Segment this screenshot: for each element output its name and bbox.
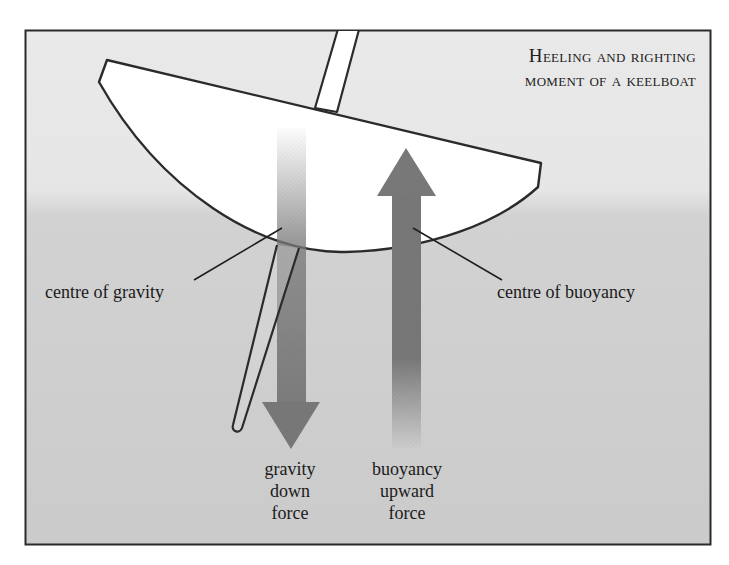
gravity-force-label: gravity down force xyxy=(255,458,325,524)
title-line-1: Heeling and righting xyxy=(525,44,696,68)
diagram-title: Heeling and righting moment of a keelboa… xyxy=(525,44,696,92)
gravity-force-line-3: force xyxy=(255,502,325,524)
buoyancy-force-line-2: upward xyxy=(362,480,452,502)
centre-of-buoyancy-label: centre of buoyancy xyxy=(497,282,635,303)
title-line-2: moment of a keelboat xyxy=(525,68,696,92)
buoyancy-force-line-3: force xyxy=(362,502,452,524)
buoyancy-force-label: buoyancy upward force xyxy=(362,458,452,524)
buoyancy-force-line-1: buoyancy xyxy=(362,458,452,480)
keelboat-diagram: Heeling and righting moment of a keelboa… xyxy=(0,0,729,565)
centre-of-gravity-label: centre of gravity xyxy=(45,282,164,303)
gravity-force-line-2: down xyxy=(255,480,325,502)
gravity-force-line-1: gravity xyxy=(255,458,325,480)
